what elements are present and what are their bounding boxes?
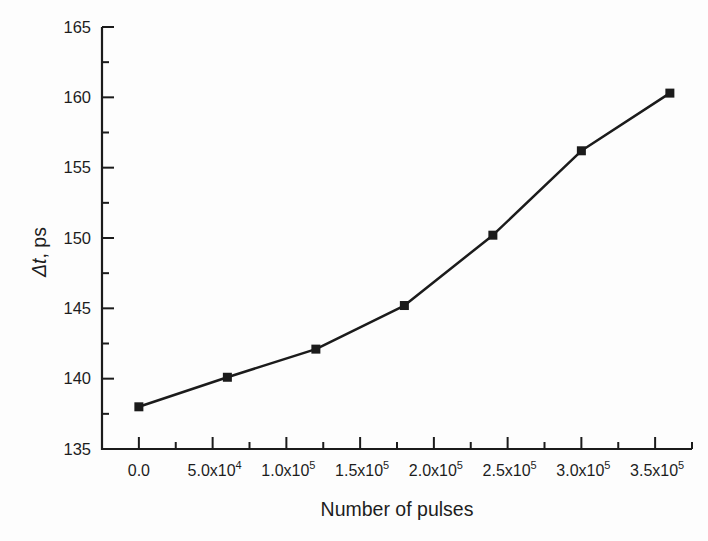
data-point-marker <box>577 146 586 155</box>
x-tick-label: 1.5x105 <box>335 459 389 479</box>
y-tick-label: 150 <box>63 229 91 247</box>
data-point-marker <box>488 231 497 240</box>
data-point-marker <box>311 345 320 354</box>
y-tick-label: 160 <box>63 88 91 106</box>
y-tick-label: 165 <box>63 18 91 36</box>
y-tick-label: 155 <box>63 158 91 176</box>
x-tick-label: 1.0x105 <box>261 459 315 479</box>
y-tick-label: 140 <box>63 369 91 387</box>
axes-frame <box>102 27 692 449</box>
data-point-marker <box>665 89 674 98</box>
data-point-marker <box>134 402 143 411</box>
data-point-marker <box>400 301 409 310</box>
x-tick-label: 3.5x105 <box>630 459 684 479</box>
x-tick-label: 0.0 <box>128 462 150 479</box>
data-point-marker <box>223 373 232 382</box>
x-tick-label: 2.0x105 <box>409 459 463 479</box>
x-tick-label: 2.5x105 <box>483 459 537 479</box>
x-axis-title: Number of pulses <box>321 498 474 520</box>
y-axis-title: Δt, ps <box>28 227 50 278</box>
figure-line-chart: 1351401451501551601650.05.0x1041.0x1051.… <box>0 0 708 541</box>
line-chart: 1351401451501551601650.05.0x1041.0x1051.… <box>0 0 708 541</box>
y-tick-label: 145 <box>63 299 91 317</box>
y-tick-label: 135 <box>63 440 91 458</box>
x-tick-label: 3.0x105 <box>556 459 610 479</box>
x-tick-label: 5.0x104 <box>188 459 242 479</box>
data-line <box>139 93 670 407</box>
